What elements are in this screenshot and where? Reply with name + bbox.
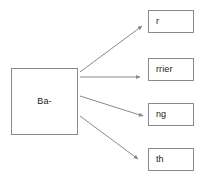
target-node-th[interactable]: th [148, 148, 194, 171]
source-node[interactable]: Ba- [11, 68, 78, 135]
target-node-rrier-label: rrier [156, 65, 173, 74]
target-node-th-label: th [156, 155, 164, 164]
arrow-to-ng-line [80, 96, 143, 116]
arrow-to-r-line [80, 26, 142, 72]
target-node-rrier[interactable]: rrier [148, 58, 194, 81]
target-node-ng-label: ng [156, 110, 166, 119]
arrow-to-th-line [80, 116, 138, 159]
target-node-ng[interactable]: ng [148, 103, 194, 126]
diagram-canvas: Ba- r rrier ng th [0, 0, 202, 182]
target-node-r[interactable]: r [148, 10, 194, 33]
source-node-label: Ba- [37, 97, 51, 106]
target-node-r-label: r [156, 17, 159, 26]
